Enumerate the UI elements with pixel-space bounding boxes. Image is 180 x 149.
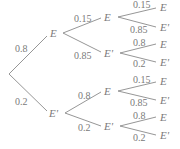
prob-E-Eprime: 0.85	[74, 51, 92, 61]
leaf-EEpE: E	[160, 39, 167, 50]
leaf-EEEprime: E'	[160, 22, 169, 33]
prob-EpEp-E: 0.8	[133, 111, 146, 121]
leaf-EEpEprime: E'	[160, 57, 169, 68]
probability-tree: 0.8 0.2 E E' 0.15 0.85 0.8 0.2 E E' E E'…	[0, 0, 180, 149]
node-Eprime: E'	[49, 108, 58, 119]
prob-EpE-E: 0.15	[133, 75, 151, 85]
prob-root-Eprime: 0.2	[15, 97, 28, 107]
leaf-EpEpEprime: E'	[160, 130, 169, 141]
prob-EpEp-Eprime: 0.2	[133, 133, 146, 143]
leaf-EEE: E	[160, 2, 167, 13]
prob-EpE-Eprime: 0.85	[130, 98, 148, 108]
node-EE: E	[104, 12, 111, 23]
prob-Eprime-E: 0.8	[78, 91, 91, 101]
prob-EEp-Eprime: 0.2	[133, 59, 146, 69]
node-EEprime: E'	[104, 48, 113, 59]
prob-EEp-E: 0.8	[133, 38, 146, 48]
branch-root-E	[9, 36, 47, 74]
prob-E-E: 0.15	[74, 14, 92, 24]
prob-EE-Eprime: 0.85	[130, 25, 148, 35]
prob-EE-E: 0.15	[133, 0, 151, 10]
leaf-EpEE: E	[160, 76, 167, 87]
leaf-EpEEprime: E'	[160, 95, 169, 106]
node-EprimeE: E	[104, 86, 111, 97]
prob-Eprime-Eprime: 0.2	[78, 123, 91, 133]
node-EprimeEprime: E'	[104, 121, 113, 132]
leaf-EpEpE: E	[160, 112, 167, 123]
prob-root-E: 0.8	[15, 44, 28, 54]
node-E: E	[50, 28, 57, 39]
